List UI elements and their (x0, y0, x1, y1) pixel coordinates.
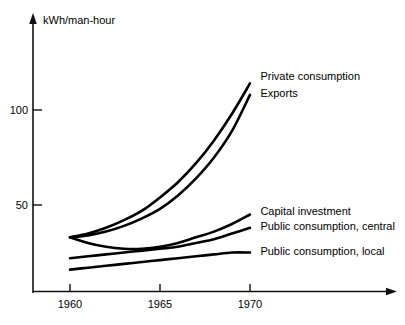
x-axis-arrow-icon (386, 288, 397, 296)
chart-container: 100 50 1960 1965 1970 kWh/man-hour Priva… (0, 0, 405, 325)
series-label-1: Exports (260, 87, 298, 99)
series-paths-group (70, 83, 250, 269)
line-chart: 100 50 1960 1965 1970 kWh/man-hour Priva… (0, 0, 405, 325)
x-tick-group: 1960 1965 1970 (58, 284, 262, 310)
y-axis-title: kWh/man-hour (43, 14, 115, 26)
series-line-0 (70, 83, 250, 237)
series-line-1 (70, 95, 250, 238)
y-axis-group (29, 13, 37, 293)
series-label-3: Public consumption, central (260, 220, 395, 232)
y-tick-label-100: 100 (10, 104, 28, 116)
series-label-2: Capital investment (260, 205, 351, 217)
series-label-0: Private consumption (260, 70, 360, 82)
y-tick-group: 100 50 (10, 104, 42, 211)
x-tick-label-1970: 1970 (238, 298, 262, 310)
series-labels-group: Private consumptionExportsCapital invest… (260, 70, 395, 257)
y-tick-label-50: 50 (16, 199, 28, 211)
y-axis-arrow-icon (29, 13, 37, 24)
series-label-4: Public consumption, local (260, 245, 384, 257)
x-tick-label-1960: 1960 (58, 298, 82, 310)
x-axis-group (33, 288, 397, 296)
x-tick-label-1965: 1965 (148, 298, 172, 310)
